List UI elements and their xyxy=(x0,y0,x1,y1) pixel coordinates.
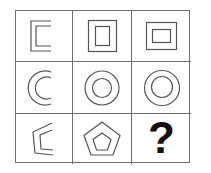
open-pentagon-double-outline-icon xyxy=(22,118,67,160)
circle-with-large-inner-circle-icon xyxy=(138,66,186,110)
matrix-cell-r3c3[interactable]: ? xyxy=(132,114,191,164)
circle-with-small-inner-circle-icon xyxy=(78,66,126,110)
double-arc-open-circle-icon xyxy=(22,66,67,110)
matrix-cell-r2c1[interactable] xyxy=(16,62,73,114)
question-mark-label: ? xyxy=(148,116,175,160)
square-with-inner-portrait-rectangle-icon xyxy=(80,15,125,57)
matrix-cell-r3c1[interactable] xyxy=(16,114,73,164)
matrix-cell-r3c2[interactable] xyxy=(73,114,132,164)
matrix-cell-r1c1[interactable] xyxy=(16,11,73,62)
matrix-puzzle-image: ? xyxy=(0,0,211,173)
square-with-inner-landscape-rectangle-icon xyxy=(139,15,184,57)
open-square-bracket-double-outline-icon xyxy=(22,15,67,57)
matrix-cell-r1c3[interactable] xyxy=(132,11,191,62)
matrix-cell-r1c2[interactable] xyxy=(73,11,132,62)
pentagon-with-inner-pentagon-icon xyxy=(78,118,126,160)
matrix-grid: ? xyxy=(15,10,190,163)
matrix-cell-r2c3[interactable] xyxy=(132,62,191,114)
matrix-cell-r2c2[interactable] xyxy=(73,62,132,114)
